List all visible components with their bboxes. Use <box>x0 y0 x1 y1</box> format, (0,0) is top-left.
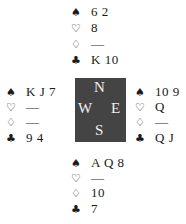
south-diamonds-row: ♢10 <box>69 185 105 201</box>
diamond-icon: ♢ <box>69 37 83 53</box>
east-spades-row: ♠10 9 <box>133 84 180 100</box>
north-hearts-row: ♡8 <box>69 20 98 36</box>
north-spades: 6 2 <box>91 4 109 20</box>
south-hearts: — <box>91 170 105 186</box>
west-clubs: 9 4 <box>26 130 44 146</box>
south-spades: A Q 8 <box>91 155 125 171</box>
north-hearts: 8 <box>91 20 98 36</box>
diamond-icon: ♢ <box>4 115 18 131</box>
west-hearts-row: ♡— <box>4 99 40 115</box>
north-clubs: K 10 <box>91 52 119 68</box>
west-diamonds: — <box>26 114 40 130</box>
compass-west: W <box>78 100 92 117</box>
west-clubs-row: ♣9 4 <box>4 130 44 146</box>
heart-icon: ♡ <box>69 21 83 37</box>
compass-box: N W E S <box>75 78 126 142</box>
compass-north: N <box>94 79 105 96</box>
north-diamonds-row: ♢— <box>69 36 105 52</box>
south-hearts-row: ♡— <box>69 170 105 186</box>
club-icon: ♣ <box>69 202 83 218</box>
south-clubs-row: ♣7 <box>69 201 98 217</box>
east-clubs-row: ♣Q J <box>133 130 174 146</box>
north-diamonds: — <box>91 36 105 52</box>
east-spades: 10 9 <box>155 84 180 100</box>
club-icon: ♣ <box>4 131 18 147</box>
east-clubs: Q J <box>155 130 174 146</box>
west-spades: K J 7 <box>26 84 56 100</box>
compass-east: E <box>111 100 120 117</box>
west-spades-row: ♠K J 7 <box>4 84 56 100</box>
diamond-icon: ♢ <box>69 186 83 202</box>
spade-icon: ♠ <box>69 5 83 21</box>
east-hearts-row: ♡Q <box>133 99 165 115</box>
club-icon: ♣ <box>69 53 83 69</box>
club-icon: ♣ <box>133 131 147 147</box>
diamond-icon: ♢ <box>133 115 147 131</box>
east-diamonds-row: ♢— <box>133 114 169 130</box>
west-diamonds-row: ♢— <box>4 114 40 130</box>
east-diamonds: — <box>155 114 169 130</box>
south-spades-row: ♠A Q 8 <box>69 155 125 171</box>
south-diamonds: 10 <box>91 185 105 201</box>
west-hearts: — <box>26 99 40 115</box>
compass-south: S <box>95 122 103 139</box>
north-clubs-row: ♣K 10 <box>69 52 119 68</box>
east-hearts: Q <box>155 99 165 115</box>
south-clubs: 7 <box>91 201 98 217</box>
north-spades-row: ♠6 2 <box>69 4 109 20</box>
